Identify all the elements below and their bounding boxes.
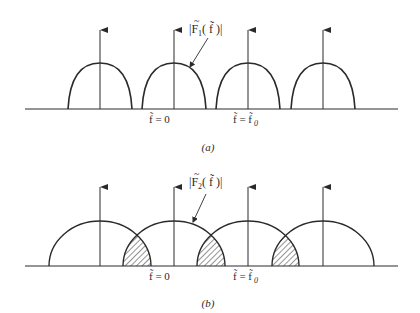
panel-b: |F2( f̃ )| ~ f̃ = 0 f̃ = f̃0 (b): [25, 168, 398, 310]
curve-leader-arrow: [190, 38, 208, 67]
impulse-arrows: [100, 30, 323, 109]
tilde-accent: ~: [194, 15, 200, 26]
tick-label-f0: f̃ = f̃0: [233, 269, 258, 285]
tick-label-zero: f̃ = 0: [149, 269, 170, 282]
sampling-spectra-figure: |F1( f̃ )| ~ f̃ = 0 f̃ = f̃0 (a): [0, 0, 420, 313]
tick-label-zero: f̃ = 0: [149, 112, 170, 125]
tick-label-f0: f̃ = f̃0: [233, 112, 258, 128]
spectrum-lobes: [68, 63, 355, 109]
panel-caption-a: (a): [202, 141, 215, 154]
tilde-accent: ~: [194, 168, 200, 179]
panel-a: |F1( f̃ )| ~ f̃ = 0 f̃ = f̃0 (a): [25, 15, 398, 154]
curve-leader-arrow: [193, 194, 206, 222]
panel-caption-b: (b): [202, 297, 215, 310]
